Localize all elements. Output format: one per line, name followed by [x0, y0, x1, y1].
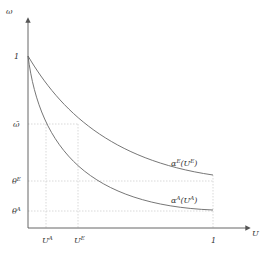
x-axis-label: U [252, 229, 259, 238]
x-tick-one: 1 [211, 236, 216, 245]
y-tick-omega-bar: ω̄ [13, 120, 20, 129]
y-tick-one: 1 [14, 52, 19, 61]
curve-label-alpha-a: αA(UA) [171, 195, 197, 205]
y-axis-label: ω [6, 7, 13, 16]
diagram-canvas: ω U 1 ω̄ θE θA UA UE 1 αE(UE) αA(UA) [0, 0, 270, 254]
x-tick-u-e: UE [74, 235, 85, 245]
curves [28, 56, 213, 210]
curve-label-alpha-e: αE(UE) [171, 158, 197, 168]
y-tick-theta-a: θA [12, 206, 21, 216]
curve-alpha-a [28, 56, 213, 210]
x-tick-u-a: UA [42, 235, 53, 245]
y-tick-theta-e: θE [12, 176, 21, 186]
curve-alpha-e [28, 56, 213, 175]
